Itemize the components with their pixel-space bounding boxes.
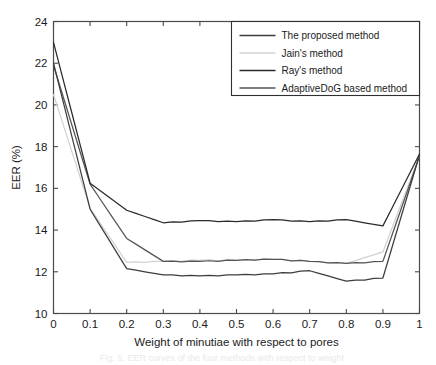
x-tick-label: 0.7 (302, 318, 318, 330)
legend-item-label: AdaptiveDoG based method (282, 83, 408, 94)
y-tick-label: 24 (35, 16, 48, 28)
y-tick-label: 14 (35, 224, 48, 236)
y-tick-label: 18 (35, 141, 48, 153)
x-tick-label: 1 (416, 318, 422, 330)
figure-caption-ghost: Fig. 5. EER curves of the four methods w… (100, 352, 350, 364)
y-axis-title: EER (%) (10, 145, 22, 190)
legend-item-label: The proposed method (282, 30, 380, 41)
x-tick-label: 0.5 (229, 318, 245, 330)
x-tick-label: 0.2 (119, 318, 135, 330)
legend: The proposed methodJain's methodRay's me… (232, 22, 420, 96)
x-tick-label: 0.6 (265, 318, 281, 330)
x-axis-title: Weight of minutiae with respect to pores (134, 336, 339, 348)
y-tick-label: 12 (35, 266, 48, 278)
legend-item-label: Ray's method (282, 65, 343, 76)
x-tick-label: 0 (50, 318, 56, 330)
y-tick-label: 20 (35, 99, 48, 111)
y-tick-label: 22 (35, 57, 48, 69)
y-tick-label: 10 (35, 308, 48, 320)
y-tick-label: 16 (35, 182, 48, 194)
x-tick-label: 0.1 (82, 318, 98, 330)
eer-line-chart: 1012141618202224 00.10.20.30.40.50.60.70… (0, 0, 436, 365)
x-tick-label: 0.8 (338, 318, 354, 330)
x-tick-label: 0.4 (192, 318, 209, 330)
figure-container: 1012141618202224 00.10.20.30.40.50.60.70… (0, 0, 436, 365)
x-tick-label: 0.9 (375, 318, 391, 330)
legend-item-label: Jain's method (282, 48, 343, 59)
x-tick-label: 0.3 (155, 318, 171, 330)
